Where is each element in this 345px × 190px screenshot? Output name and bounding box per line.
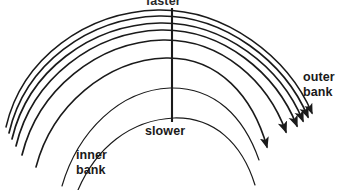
label-slower: slower xyxy=(145,124,185,139)
label-inner-bank: inner bank xyxy=(76,148,107,177)
flow-arc-6 xyxy=(36,58,267,167)
flow-arc-group xyxy=(6,10,312,190)
label-faster: faster xyxy=(146,0,181,9)
river-flow-diagram xyxy=(0,0,345,190)
diagram-canvas: faster slower inner bank outer bank xyxy=(0,0,345,190)
label-outer-bank: outer bank xyxy=(303,70,335,99)
